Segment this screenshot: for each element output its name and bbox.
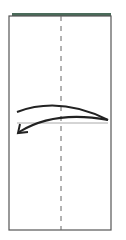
origami-diagram [0, 0, 126, 240]
